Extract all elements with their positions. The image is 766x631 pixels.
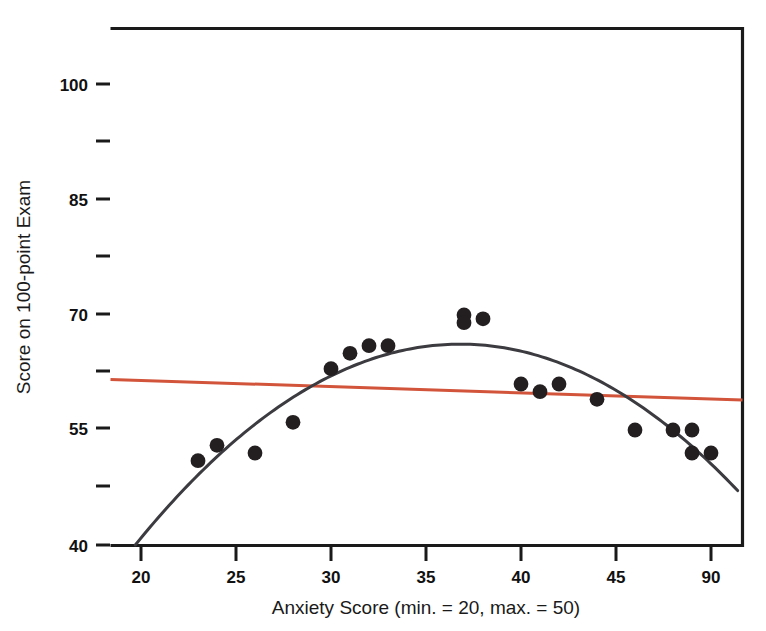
x-tick-label-30: 30	[322, 568, 341, 587]
data-point	[666, 423, 681, 438]
x-tick-label-25: 25	[227, 568, 246, 587]
x-axis-title: Anxiety Score (min. = 20, max. = 50)	[272, 597, 580, 618]
y-axis-ticks	[96, 84, 110, 545]
x-tick-label-45: 45	[607, 568, 626, 587]
quadratic-fit-curve	[135, 344, 737, 545]
y-tick-label-85: 85	[69, 191, 88, 210]
data-point	[248, 446, 263, 461]
x-tick-labels: 20 25 30 35 40 45 90	[132, 568, 721, 587]
data-point	[685, 423, 700, 438]
data-point	[210, 438, 225, 453]
x-tick-label-35: 35	[417, 568, 436, 587]
data-point	[286, 415, 301, 430]
chart-canvas: 100 85 70 55 40 Score on 100-point Exam …	[0, 0, 766, 631]
y-tick-label-100: 100	[60, 76, 88, 95]
data-point	[457, 315, 472, 330]
y-axis-title: Score on 100-point Exam	[13, 180, 34, 394]
data-point	[514, 377, 529, 392]
y-tick-label-40: 40	[69, 537, 88, 556]
data-point	[191, 453, 206, 468]
x-tick-label-20: 20	[132, 568, 151, 587]
y-tick-labels: 100 85 70 55 40	[60, 76, 88, 556]
data-point	[552, 377, 567, 392]
data-point	[343, 346, 358, 361]
x-tick-label-50: 90	[702, 568, 721, 587]
x-axis-ticks	[141, 545, 711, 561]
data-point	[324, 361, 339, 376]
data-point	[628, 423, 643, 438]
scatterplot-figure: 100 85 70 55 40 Score on 100-point Exam …	[0, 0, 766, 631]
data-point	[476, 311, 491, 326]
data-point	[590, 392, 605, 407]
x-tick-label-40: 40	[512, 568, 531, 587]
data-point	[685, 446, 700, 461]
y-tick-label-70: 70	[69, 306, 88, 325]
data-point	[381, 338, 396, 353]
linear-regression-line	[111, 379, 743, 400]
y-tick-label-55: 55	[69, 420, 88, 439]
data-point-group	[191, 308, 719, 468]
data-point	[704, 446, 719, 461]
data-point	[533, 384, 548, 399]
data-point	[362, 338, 377, 353]
